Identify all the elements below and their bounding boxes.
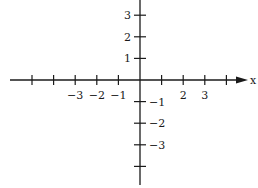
y-tick-label: 3: [124, 9, 131, 22]
y-tick-label: −2: [149, 117, 165, 130]
x-axis-label: x: [250, 74, 257, 87]
x-axis-tick-labels: −3−2−123: [67, 89, 208, 102]
x-tick-label: −3: [67, 89, 83, 102]
x-tick-label: 2: [180, 89, 187, 102]
x-tick-label: −2: [89, 89, 105, 102]
y-tick-label: −3: [149, 139, 165, 152]
y-tick-label: −1: [149, 96, 165, 109]
x-tick-label: 3: [201, 89, 208, 102]
x-axis-arrow-icon: [236, 77, 248, 84]
y-tick-label: 1: [124, 52, 131, 65]
x-tick-label: −1: [110, 89, 126, 102]
coordinate-plane: x −3−2−123 321−1−2−3: [0, 0, 258, 188]
y-tick-label: 2: [124, 31, 131, 44]
